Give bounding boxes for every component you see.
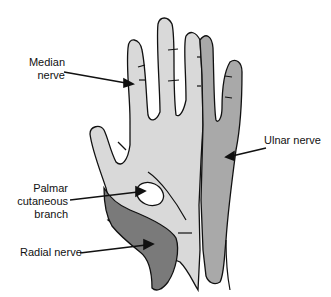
hand-nerve-diagram: Median nerve Ulnar nerve Palmar cutaneou…: [0, 0, 331, 297]
median-nerve-label: Median nerve: [10, 56, 65, 82]
ulnar-nerve-label: Ulnar nerve: [264, 134, 321, 147]
radial-nerve-label: Radial nerve: [20, 246, 82, 259]
ulnar-nerve-region: [200, 36, 242, 284]
palmar-cutaneous-branch-label: Palmar cutaneous branch: [6, 182, 68, 221]
